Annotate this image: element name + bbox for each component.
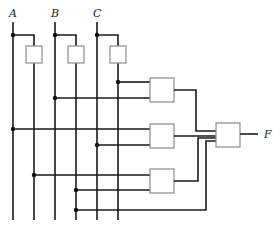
junction-dot	[95, 33, 99, 37]
junction-dot	[32, 173, 36, 177]
input-label-c: C	[93, 7, 102, 20]
junction-dot	[74, 188, 78, 192]
inverter-a	[26, 46, 42, 63]
or-gate-final	[216, 123, 240, 147]
and-gate-2	[150, 124, 174, 148]
branch-a-to-inverter	[13, 35, 34, 46]
junction-dot	[95, 143, 99, 147]
input-label-b: B	[50, 7, 59, 20]
inverter-b	[68, 46, 84, 63]
output-label-f: F	[263, 128, 272, 141]
logic-circuit-diagram: A B C F	[0, 0, 280, 228]
junction-dot	[74, 208, 78, 212]
junction-dot	[11, 33, 15, 37]
inverter-c	[110, 46, 126, 63]
and-gate-3	[150, 169, 174, 193]
branch-b-to-inverter	[55, 35, 76, 46]
junction-dot	[53, 96, 57, 100]
junction-dot	[116, 80, 120, 84]
junction-dot	[11, 127, 15, 131]
branch-c-to-inverter	[97, 35, 118, 46]
junction-dot	[53, 33, 57, 37]
wire-g3-out	[174, 138, 216, 181]
wire-g1-out	[174, 90, 216, 131]
input-label-a: A	[8, 7, 17, 20]
and-gate-1	[150, 78, 174, 102]
